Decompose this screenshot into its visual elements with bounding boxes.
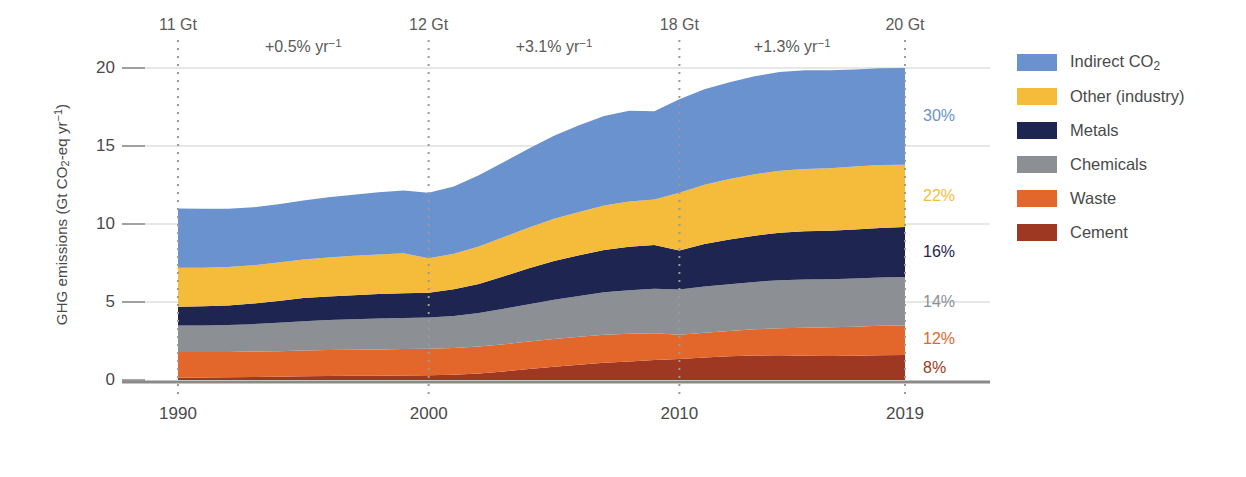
legend: Indirect CO2Other (industry)MetalsChemic… <box>1017 47 1246 251</box>
legend-swatch-icon <box>1017 224 1057 241</box>
total-annotation-2010: 18 Gt <box>660 16 699 34</box>
x-tick-label-2010: 2010 <box>660 404 698 424</box>
total-annotation-2019: 20 Gt <box>885 16 924 34</box>
growth-rate-annotation-0: +0.5% yr−1 <box>265 37 342 56</box>
legend-item-label: Chemicals <box>1070 155 1147 174</box>
total-annotation-2000: 12 Gt <box>409 16 448 34</box>
legend-swatch-icon <box>1017 54 1057 71</box>
legend-item-label: Cement <box>1070 223 1128 242</box>
legend-item-label: Waste <box>1070 189 1116 208</box>
legend-item-label: Metals <box>1070 121 1119 140</box>
legend-swatch-icon <box>1017 156 1057 173</box>
growth-rate-annotation-1: +3.1% yr−1 <box>516 37 593 56</box>
x-tick-label-2019: 2019 <box>886 404 924 424</box>
share-label-8pct: 8% <box>923 359 946 377</box>
total-annotation-1990: 11 Gt <box>159 16 197 34</box>
legend-swatch-icon <box>1017 190 1057 207</box>
legend-item-label: Other (industry) <box>1070 87 1185 106</box>
legend-item-chemicals[interactable]: Chemicals <box>1017 149 1246 180</box>
legend-item-label: Indirect CO2 <box>1070 52 1160 73</box>
share-label-14pct: 14% <box>923 293 955 311</box>
growth-rate-annotation-2: +1.3% yr−1 <box>754 37 831 56</box>
legend-item-waste[interactable]: Waste <box>1017 183 1246 214</box>
share-label-12pct: 12% <box>923 330 955 348</box>
x-tick-label-2000: 2000 <box>410 404 448 424</box>
legend-item-cement[interactable]: Cement <box>1017 217 1246 248</box>
x-tick-label-1990: 1990 <box>159 404 197 424</box>
share-label-30pct: 30% <box>923 107 955 125</box>
legend-swatch-icon <box>1017 88 1057 105</box>
share-label-16pct: 16% <box>923 243 955 261</box>
chart-figure: GHG emissions (Gt CO2-eq yr−1) 05101520 … <box>0 0 1246 477</box>
legend-item-indirect-co2[interactable]: Indirect CO2 <box>1017 47 1246 78</box>
legend-swatch-icon <box>1017 122 1057 139</box>
share-label-22pct: 22% <box>923 187 955 205</box>
legend-item-metals[interactable]: Metals <box>1017 115 1246 146</box>
legend-item-other-industry[interactable]: Other (industry) <box>1017 81 1246 112</box>
